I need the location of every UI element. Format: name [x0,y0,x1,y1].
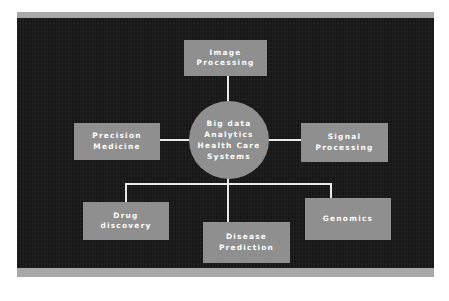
connector-hub-to-precision-medicine [160,139,191,141]
node-image-processing[interactable]: Image Processing [184,40,267,76]
hub-node-big-data-analytics-health-care-systems[interactable]: Big data Analytics Health Care Systems [189,101,269,179]
connector-hub-to-signal-processing [267,139,302,141]
connector-bus-to-genomics [330,183,332,199]
connector-bus-to-disease-prediction [227,183,229,223]
node-signal-processing[interactable]: Signal Processing [301,123,388,162]
node-genomics[interactable]: Genomics [305,198,391,240]
node-precision-medicine[interactable]: Precision Medicine [74,123,160,160]
node-disease-prediction[interactable]: Disease Prediction [203,222,290,263]
diagram-page: Big data Analytics Health Care Systems I… [0,0,449,301]
node-drug-discovery[interactable]: Drug discovery [83,202,169,240]
connector-hub-to-image-processing [227,76,229,103]
connector-bus-to-drug-discovery [125,183,127,203]
diagram-canvas: Big data Analytics Health Care Systems I… [17,18,434,268]
